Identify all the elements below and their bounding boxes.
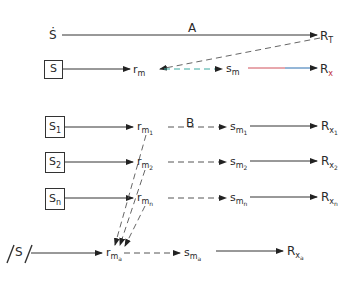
path-a-label: A: [188, 22, 196, 34]
rm2-label: rm2: [137, 156, 153, 171]
path-b-label: B: [186, 117, 194, 129]
source-box-s1: S1: [45, 116, 65, 138]
source-rate-label: Ṡ: [49, 29, 57, 41]
source-box-s: S: [44, 60, 63, 79]
rxa-label: Rxa: [287, 245, 304, 261]
rxn-label: Rxn: [321, 191, 338, 207]
diagram-canvas: [0, 0, 361, 284]
source-box-sn: Sn: [45, 188, 65, 210]
aggregate-source-label: S: [15, 246, 23, 258]
feedback-dashed-line: [160, 38, 320, 69]
sa-slash-right: [25, 245, 32, 263]
rx-label: Rx: [320, 63, 333, 78]
rmn-to-rma-dashed: [125, 206, 145, 246]
rm1-to-rma-dashed: [115, 135, 146, 245]
sma-label: sma: [184, 247, 201, 262]
sa-slash-left: [7, 245, 14, 263]
target-rt-label: RT: [320, 30, 333, 45]
rx2-label: Rx2: [321, 155, 338, 171]
rx1-label: Rx1: [321, 120, 338, 136]
sm-label: sm: [226, 63, 240, 77]
rmn-label: rmn: [137, 192, 153, 207]
rma-label: rma: [106, 247, 122, 262]
rm2-to-rma-dashed: [120, 170, 145, 245]
rm1-label: rm1: [137, 121, 153, 136]
source-box-s2: S2: [45, 152, 65, 173]
smn-label: smn: [230, 192, 247, 207]
sm2-label: sm2: [230, 156, 247, 171]
sm1-label: sm1: [230, 121, 247, 136]
rm-label: rm: [133, 64, 145, 78]
